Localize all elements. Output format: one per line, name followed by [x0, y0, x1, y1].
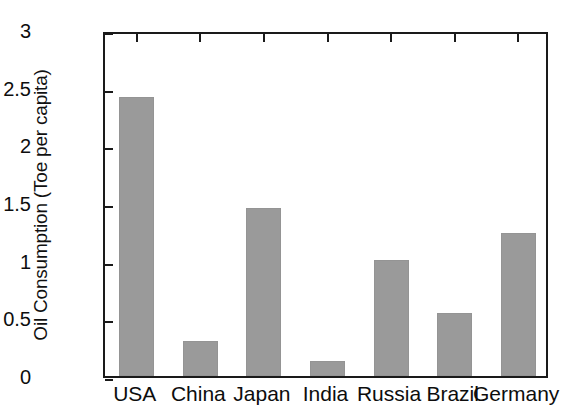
bar: [183, 341, 218, 376]
y-tick-mark: [105, 379, 113, 381]
x-tick-mark: [327, 34, 329, 42]
x-tick-mark: [517, 34, 519, 42]
x-axis-category-label: Germany: [466, 382, 566, 405]
y-tick-label: 0: [0, 367, 31, 387]
y-tick-mark: [105, 321, 113, 323]
bar: [310, 361, 345, 376]
y-tick-label: 3: [0, 21, 31, 41]
bar: [437, 313, 472, 376]
bar: [246, 208, 281, 376]
bar: [374, 260, 409, 376]
bar: [119, 97, 154, 376]
bar-chart: Oil Consumption (Toe per capita) 00.511.…: [0, 0, 587, 420]
y-tick-mark: [105, 91, 113, 93]
y-tick-label: 2.5: [0, 79, 31, 99]
bar: [501, 233, 536, 376]
y-tick-label: 1.5: [0, 194, 31, 214]
x-tick-mark: [199, 34, 201, 42]
y-tick-mark: [105, 206, 113, 208]
y-tick-label: 2: [0, 136, 31, 156]
x-tick-mark: [263, 34, 265, 42]
x-tick-mark: [454, 34, 456, 42]
y-tick-mark: [105, 264, 113, 266]
x-tick-mark: [136, 34, 138, 42]
y-tick-label: 0.5: [0, 309, 31, 329]
y-tick-mark: [105, 148, 113, 150]
plot-area: [103, 32, 548, 378]
y-tick-label: 1: [0, 252, 31, 272]
y-tick-mark: [105, 33, 113, 35]
x-tick-mark: [390, 34, 392, 42]
